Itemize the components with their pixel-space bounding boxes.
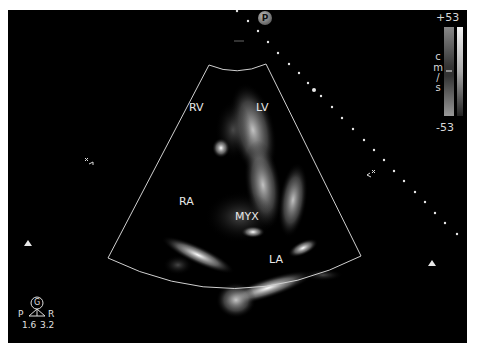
label-ra: RA [179, 196, 194, 207]
sector-image [8, 10, 467, 343]
orientation-left-value: 1.6 [22, 321, 36, 330]
orientation-right-value: 3.2 [40, 321, 54, 330]
depth-triangle-icon [24, 240, 32, 246]
orientation-left: P [18, 310, 23, 319]
ultrasound-display: RV LV RA MYX LA +53 -53 c m / s P G P R … [8, 10, 467, 343]
scale-min: -53 [436, 122, 454, 133]
depth-triangle-icon [428, 260, 436, 266]
apex-mark [234, 40, 244, 42]
orientation-right: R [48, 310, 54, 319]
color-scale-reference-bar [457, 27, 463, 116]
focus-marker-icon [367, 170, 375, 177]
scale-max: +53 [436, 12, 459, 23]
label-lv: LV [256, 102, 268, 113]
label-rv: RV [189, 102, 204, 113]
label-la: LA [269, 254, 283, 265]
orientation-gain: G [34, 299, 40, 307]
label-myx: MYX [235, 211, 259, 222]
focus-marker-icon [85, 158, 93, 165]
probe-marker-icon: P [258, 11, 272, 25]
scale-unit-c: c [433, 52, 443, 63]
scale-unit-s: s [433, 83, 443, 94]
